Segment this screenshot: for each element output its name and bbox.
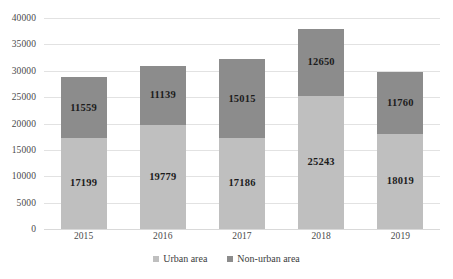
bar-segment[interactable]: 18019 [377, 134, 423, 229]
legend-swatch-icon [153, 256, 159, 262]
y-axis-tick-label: 35000 [12, 39, 36, 49]
x-axis-tick-label: 2016 [153, 231, 172, 241]
bar-segment[interactable]: 11139 [140, 66, 186, 125]
x-axis-tick-label: 2018 [311, 231, 330, 241]
y-axis-tick-label: 40000 [12, 13, 36, 23]
legend-item[interactable]: Non-urban area [227, 253, 299, 264]
bar-value-label: 11559 [70, 103, 97, 114]
bar-value-label: 12650 [308, 57, 335, 68]
bar-value-label: 19779 [149, 172, 176, 183]
bar-segment[interactable]: 17186 [219, 138, 265, 229]
bar-value-label: 11760 [387, 98, 414, 109]
bar-value-label: 11139 [150, 90, 176, 101]
axis-baseline [44, 229, 440, 230]
y-axis-tick-label: 20000 [12, 119, 36, 129]
y-axis: 0500010000150002000025000300003500040000 [0, 18, 40, 229]
bar-segment[interactable]: 17199 [61, 138, 107, 229]
legend-label: Urban area [163, 253, 207, 264]
bar-group[interactable]: 1176018019 [377, 72, 423, 229]
legend-item[interactable]: Urban area [153, 253, 207, 264]
plot-area: 1155917199111391977915015171861265025243… [44, 18, 440, 229]
x-axis-tick-label: 2017 [232, 231, 251, 241]
bar-value-label: 17199 [70, 178, 97, 189]
y-axis-tick-label: 0 [31, 224, 36, 234]
bar-segment[interactable]: 25243 [298, 96, 344, 229]
bar-group[interactable]: 1501517186 [219, 59, 265, 229]
x-axis-tick-label: 2015 [74, 231, 93, 241]
y-axis-tick-label: 30000 [12, 66, 36, 76]
bar-value-label: 17186 [228, 178, 255, 189]
bar-segment[interactable]: 15015 [219, 59, 265, 138]
x-axis-tick-label: 2019 [391, 231, 410, 241]
chart-legend: Urban areaNon-urban area [0, 253, 453, 264]
y-axis-tick-label: 5000 [17, 198, 36, 208]
bar-segment[interactable]: 12650 [298, 29, 344, 96]
bar-value-label: 18019 [387, 176, 414, 187]
legend-swatch-icon [227, 256, 233, 262]
bar-value-label: 15015 [228, 94, 255, 105]
bar-segment[interactable]: 11760 [377, 72, 423, 134]
bars-layer: 1155917199111391977915015171861265025243… [44, 18, 440, 229]
bar-group[interactable]: 1113919779 [140, 66, 186, 229]
y-axis-tick-label: 25000 [12, 92, 36, 102]
stacked-bar-chart: 0500010000150002000025000300003500040000… [0, 0, 453, 279]
bar-group[interactable]: 1155917199 [61, 77, 107, 229]
x-axis: 20152016201720182019 [44, 231, 440, 249]
bar-segment[interactable]: 11559 [61, 77, 107, 138]
y-axis-tick-label: 10000 [12, 171, 36, 181]
bar-value-label: 25243 [308, 157, 335, 168]
legend-label: Non-urban area [237, 253, 299, 264]
bar-segment[interactable]: 19779 [140, 125, 186, 229]
bar-group[interactable]: 1265025243 [298, 29, 344, 229]
y-axis-tick-label: 15000 [12, 145, 36, 155]
